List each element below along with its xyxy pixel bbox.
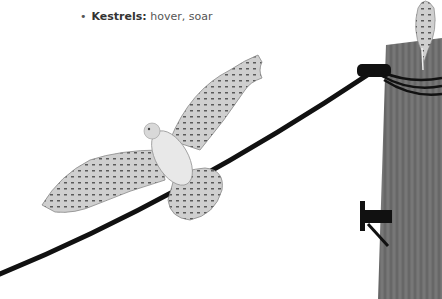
flying-kestrel <box>42 55 262 220</box>
utility-pole <box>378 38 442 299</box>
kestrel-illustration <box>0 0 442 299</box>
